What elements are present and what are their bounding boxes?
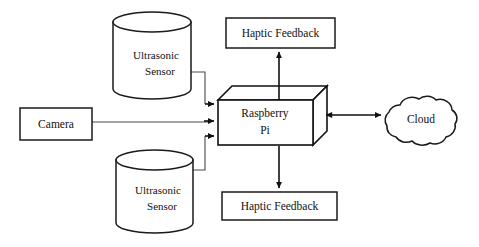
node-haptic-feedback-top[interactable]: Haptic Feedback [226, 18, 335, 48]
raspberry-pi-label-line1: Raspberry [241, 107, 289, 120]
diagram-svg: Ultrasonic Sensor Ultrasonic Sensor Came… [0, 0, 479, 247]
cloud-label: Cloud [407, 113, 435, 125]
cylinder-top-ellipse-top [113, 12, 191, 32]
pi-top-face [218, 86, 327, 100]
ultrasonic-bottom-label-line2: Sensor [147, 200, 177, 212]
ultrasonic-bottom-label-line1: Ultrasonic [135, 184, 181, 196]
node-raspberry-pi[interactable]: Raspberry Pi [218, 86, 327, 145]
block-diagram-canvas: Ultrasonic Sensor Ultrasonic Sensor Came… [0, 0, 479, 247]
connector-ultrasonic-top [191, 72, 205, 104]
node-ultrasonic-sensor-bottom[interactable]: Ultrasonic Sensor [116, 150, 193, 233]
camera-label: Camera [38, 118, 74, 130]
ultrasonic-top-label-line2: Sensor [145, 65, 175, 77]
haptic-top-label: Haptic Feedback [242, 27, 320, 40]
connector-ultrasonic-bottom [193, 136, 205, 170]
cylinder-top-ellipse-bottom [116, 150, 193, 170]
ultrasonic-top-label-line1: Ultrasonic [133, 49, 179, 61]
haptic-bottom-label: Haptic Feedback [241, 200, 319, 213]
node-ultrasonic-sensor-top[interactable]: Ultrasonic Sensor [113, 12, 191, 99]
raspberry-pi-label-line2: Pi [260, 124, 270, 136]
node-haptic-feedback-bottom[interactable]: Haptic Feedback [222, 192, 337, 220]
cylinder-body-bottom [116, 160, 193, 233]
node-cloud[interactable]: Cloud [385, 96, 457, 145]
node-camera[interactable]: Camera [20, 108, 92, 140]
